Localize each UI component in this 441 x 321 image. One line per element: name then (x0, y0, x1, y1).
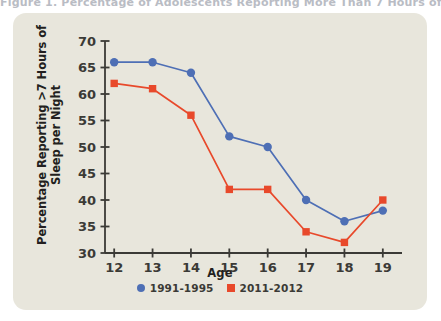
y-axis-tick-label: 45 (78, 166, 96, 181)
data-point-marker (187, 69, 195, 77)
y-axis-tick-label: 30 (78, 246, 96, 261)
data-point-marker (226, 186, 233, 193)
data-point-marker (263, 143, 271, 151)
data-point-marker (110, 80, 117, 87)
legend-circle-marker-icon (137, 284, 145, 292)
y-axis-title-line-1: Percentage Reporting >7 Hours of (35, 20, 49, 250)
legend-label: 2011-2012 (240, 282, 304, 294)
legend-square-marker-icon (227, 284, 235, 292)
y-axis-tick-label: 40 (78, 193, 96, 208)
legend-item-2011-2012: 2011-2012 (227, 282, 304, 294)
data-point-marker (187, 112, 194, 119)
legend-label: 1991-1995 (150, 282, 214, 294)
data-point-marker (264, 186, 271, 193)
y-axis-title: Percentage Reporting >7 Hours of Sleep p… (35, 20, 63, 250)
chart-card: Percentage Reporting >7 Hours of Sleep p… (13, 13, 427, 310)
y-axis-tick-label: 70 (78, 34, 96, 49)
y-axis-tick-label: 60 (78, 87, 96, 102)
data-point-marker (225, 132, 233, 140)
y-axis-tick-label: 65 (78, 60, 96, 75)
chart-page: Figure 1. Percentage of Adolescents Repo… (0, 0, 441, 321)
x-axis-title: Age (13, 266, 427, 280)
data-point-marker (340, 217, 348, 225)
y-axis-tick-label: 35 (78, 219, 96, 234)
data-point-marker (379, 196, 386, 203)
data-point-marker (379, 206, 387, 214)
data-point-marker (341, 239, 348, 246)
data-point-marker (110, 58, 118, 66)
cropped-title-text: Figure 1. Percentage of Adolescents Repo… (0, 0, 441, 8)
plot-area: 3035404550556065701213141516171819 (60, 27, 410, 289)
data-point-marker (302, 196, 310, 204)
line-chart-svg: 3035404550556065701213141516171819 (60, 27, 410, 289)
data-point-marker (148, 58, 156, 66)
chart-legend: 1991-1995 2011-2012 (13, 282, 427, 294)
data-point-marker (302, 228, 309, 235)
y-axis-tick-label: 50 (78, 140, 96, 155)
data-point-marker (149, 85, 156, 92)
legend-item-1991-1995: 1991-1995 (137, 282, 214, 294)
y-axis-tick-label: 55 (78, 113, 96, 128)
